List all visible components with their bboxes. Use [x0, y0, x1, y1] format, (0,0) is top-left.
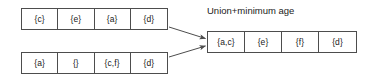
top-input-cell-0: {c} [22, 9, 58, 29]
bottom-input-array: {a} {} {c,f} {d} [21, 52, 168, 74]
result-cell-3: {d} [319, 32, 356, 52]
top-input-array: {c} {e} {a} {d} [21, 8, 168, 30]
diagram-canvas: {c} {e} {a} {d} {a} {} {c,f} {d} Union+m… [0, 0, 371, 81]
top-input-cell-2: {a} [95, 9, 131, 29]
arrow-bottom-to-result [169, 46, 206, 57]
result-cell-1: {e} [245, 32, 282, 52]
top-input-cell-1: {e} [58, 9, 94, 29]
result-cell-0: {a,c} [208, 32, 245, 52]
result-array: {a,c} {e} {f} {d} [207, 31, 357, 53]
result-cell-2: {f} [282, 32, 319, 52]
bottom-input-cell-3: {d} [131, 53, 167, 73]
operation-label: Union+minimum age [207, 6, 294, 16]
top-input-cell-3: {d} [131, 9, 167, 29]
arrow-top-to-result [169, 27, 206, 39]
bottom-input-cell-0: {a} [22, 53, 58, 73]
bottom-input-cell-2: {c,f} [95, 53, 131, 73]
bottom-input-cell-1: {} [58, 53, 94, 73]
